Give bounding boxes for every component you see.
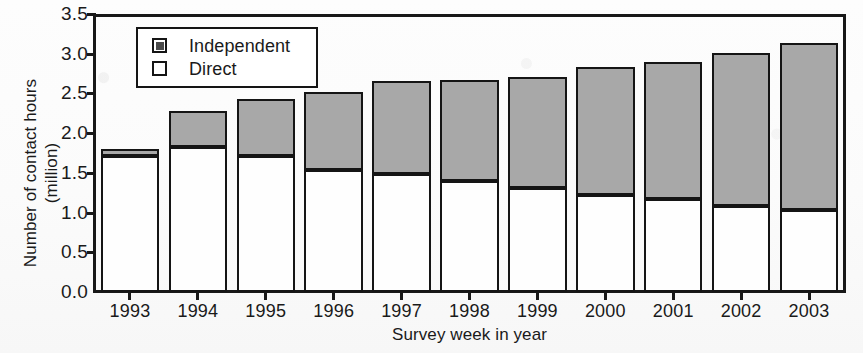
bar-group[interactable]	[372, 83, 430, 292]
legend-label-direct: Direct	[189, 59, 237, 79]
bar-segment-direct[interactable]	[304, 170, 362, 292]
y-axis-tick-label: 0.0	[42, 282, 88, 301]
x-axis-tick-label: 1994	[177, 300, 218, 322]
x-axis-tick-label: 1998	[449, 300, 490, 322]
y-axis-tick-label: 2.5	[42, 83, 88, 102]
x-axis-tick-mark	[468, 292, 471, 300]
bar-segment-independent[interactable]	[644, 62, 702, 199]
stacked-bar-chart: Number of contact hours (million) 0.00.5…	[0, 0, 863, 353]
bar-group[interactable]	[169, 113, 227, 292]
bar-segment-independent[interactable]	[372, 81, 430, 174]
x-axis-tick-label: 1993	[110, 300, 151, 322]
legend-item-independent: Independent	[152, 34, 290, 57]
x-axis-tick-mark	[264, 292, 267, 300]
bar-group[interactable]	[440, 82, 498, 292]
x-axis-tick-mark	[808, 292, 811, 300]
legend-item-direct: Direct	[152, 57, 290, 80]
x-axis-tick-label: 1996	[313, 300, 354, 322]
bar-segment-direct[interactable]	[237, 156, 295, 292]
x-axis-tick-label: 1999	[517, 300, 558, 322]
x-axis-title: Survey week in year	[96, 325, 843, 345]
bar-segment-independent[interactable]	[169, 111, 227, 148]
x-axis-tick-mark	[536, 292, 539, 300]
x-axis-tick-mark	[740, 292, 743, 300]
y-axis-tick-label: 1.0	[42, 203, 88, 222]
bar-segment-independent[interactable]	[237, 99, 295, 156]
bar-segment-independent[interactable]	[712, 53, 770, 206]
y-axis-tick-label: 2.0	[42, 123, 88, 142]
bar-segment-independent[interactable]	[508, 77, 566, 188]
bar-group[interactable]	[644, 65, 702, 292]
y-axis-tick-labels: 0.00.51.01.52.02.53.03.5	[38, 0, 88, 353]
bar-segment-independent[interactable]	[440, 80, 498, 181]
x-axis-tick-mark	[332, 292, 335, 300]
bar-group[interactable]	[780, 45, 838, 292]
x-axis-tick-label: 2000	[585, 300, 626, 322]
bar-segment-direct[interactable]	[576, 195, 634, 292]
bar-segment-direct[interactable]	[644, 199, 702, 292]
y-axis-tick-label: 3.5	[42, 4, 88, 23]
bar-group[interactable]	[576, 70, 634, 292]
bar-segment-direct[interactable]	[780, 210, 838, 292]
bar-segment-independent[interactable]	[576, 67, 634, 195]
chart-legend: Independent Direct	[136, 27, 318, 88]
x-axis-tick-mark	[400, 292, 403, 300]
x-axis-tick-label: 2002	[721, 300, 762, 322]
legend-swatch-direct-icon	[152, 61, 167, 76]
bar-group[interactable]	[508, 80, 566, 292]
bar-segment-independent[interactable]	[780, 43, 838, 211]
y-axis-tick-label: 0.5	[42, 242, 88, 261]
x-axis-ticks	[96, 292, 843, 300]
x-axis-tick-labels: 1993199419951996199719981999200020012002…	[96, 300, 843, 326]
bar-segment-direct[interactable]	[372, 174, 430, 292]
bar-segment-direct[interactable]	[169, 147, 227, 292]
bar-segment-independent[interactable]	[304, 92, 362, 170]
x-axis-tick-mark	[604, 292, 607, 300]
bar-segment-direct[interactable]	[712, 206, 770, 292]
x-axis-tick-label: 1995	[245, 300, 286, 322]
bar-group[interactable]	[304, 94, 362, 292]
x-axis-tick-mark	[196, 292, 199, 300]
x-axis-tick-mark	[128, 292, 131, 300]
bar-group[interactable]	[101, 151, 159, 292]
bar-group[interactable]	[237, 101, 295, 292]
y-axis-tick-label: 1.5	[42, 163, 88, 182]
x-axis-tick-mark	[672, 292, 675, 300]
bar-group[interactable]	[712, 55, 770, 292]
bar-segment-direct[interactable]	[101, 156, 159, 292]
legend-label-independent: Independent	[189, 36, 290, 56]
y-axis-tick-label: 3.0	[42, 44, 88, 63]
legend-swatch-independent-icon	[152, 38, 167, 53]
x-axis-tick-label: 2001	[653, 300, 694, 322]
x-axis-tick-label: 2003	[789, 300, 830, 322]
bar-segment-direct[interactable]	[440, 181, 498, 292]
bar-segment-independent[interactable]	[101, 149, 159, 156]
x-axis-tick-label: 1997	[381, 300, 422, 322]
bar-segment-direct[interactable]	[508, 188, 566, 292]
